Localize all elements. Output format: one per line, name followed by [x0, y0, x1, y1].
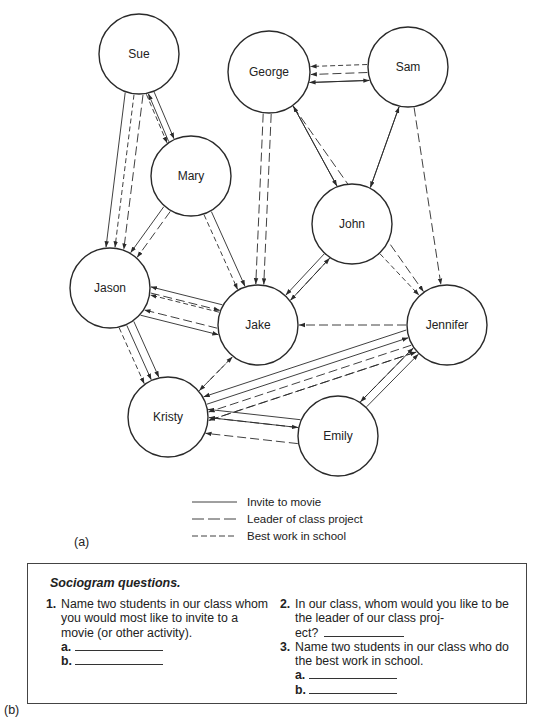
node-label: Jason	[94, 281, 126, 295]
edge-leader-sue-to-jason	[124, 95, 143, 250]
answer-blank-a[interactable]: a.	[61, 640, 271, 654]
answer-line[interactable]	[324, 626, 404, 637]
question-text: In our class, whom would you like to be …	[295, 597, 509, 625]
node-sam: Sam	[368, 27, 448, 107]
question-text: Name two students in our class whom you …	[61, 597, 268, 640]
node-kristy: Kristy	[128, 377, 208, 457]
question-3: 3. Name two students in our class who do…	[280, 640, 520, 697]
edge-movie-john-to-jake	[286, 254, 324, 295]
sociogram-questions-box: Sociogram questions. 1. Name two student…	[27, 563, 527, 704]
edge-best-sue-to-mary	[146, 94, 167, 143]
node-label: Jake	[245, 318, 271, 332]
legend-item-leader: Leader of class project	[192, 513, 364, 525]
legend-item-movie: Invite to movie	[192, 496, 321, 508]
legend-label: Best work in school	[247, 530, 346, 542]
panel-a-label: (a)	[74, 535, 89, 549]
edge-best-mary-to-jake	[204, 215, 238, 290]
edge-movie-george-to-sam	[310, 80, 370, 82]
edge-movie-mary-to-jake	[211, 212, 245, 287]
legend: Invite to movieLeader of class projectBe…	[192, 496, 364, 542]
blank-letter: b.	[61, 654, 75, 668]
answer-line[interactable]	[75, 640, 163, 651]
edge-movie-emily-to-kristy	[208, 409, 300, 419]
legend-item-best: Best work in school	[192, 530, 346, 542]
node-emily: Emily	[298, 396, 378, 476]
edge-movie-jake-to-jason	[151, 287, 223, 305]
edge-best-sam-to-george	[311, 65, 368, 67]
node-label: Mary	[178, 169, 205, 183]
question-1: 1. Name two students in our class whom y…	[46, 597, 271, 668]
node-label: Emily	[323, 429, 352, 443]
node-sue: Sue	[99, 14, 179, 94]
answer-blank-b[interactable]: b.	[295, 683, 520, 697]
edge-leader-george-to-jake	[264, 114, 271, 285]
blank-letter: a.	[295, 668, 309, 682]
edge-leader-jake-to-kristy	[199, 357, 232, 391]
answer-line[interactable]	[75, 654, 163, 665]
node-mary: Mary	[151, 136, 231, 216]
node-jake: Jake	[218, 285, 298, 365]
nodes-layer: SueGeorgeSamMaryJohnJasonJakeJenniferKri…	[70, 14, 487, 476]
blank-letter: a.	[61, 640, 75, 654]
edge-movie-jason-to-jake	[141, 315, 219, 335]
node-label: Jennifer	[426, 318, 469, 332]
answer-line[interactable]	[309, 668, 397, 679]
edge-movie-jake-to-john	[291, 258, 330, 300]
edge-leader-sam-to-jennifer	[414, 108, 441, 285]
node-label: George	[249, 65, 289, 79]
question-number: 3.	[280, 640, 290, 654]
questions-title: Sociogram questions.	[50, 576, 181, 590]
edge-movie-sue-to-jason	[106, 93, 125, 248]
node-label: Sam	[396, 60, 421, 74]
questions-right-column: 2. In our class, whom would you like to …	[280, 597, 520, 697]
node-jennifer: Jennifer	[407, 285, 487, 365]
question-number: 2.	[280, 597, 290, 611]
edge-leader-george-to-jake	[256, 114, 263, 285]
edge-movie-emily-to-jennifer	[367, 354, 419, 406]
node-george: George	[228, 31, 310, 113]
question-number: 1.	[46, 597, 56, 611]
node-label: John	[339, 217, 365, 231]
edge-movie-john-to-george	[293, 106, 337, 186]
question-text: Name two students in our class who do th…	[295, 640, 509, 668]
node-label: Sue	[128, 47, 150, 61]
edge-best-sue-to-jason	[115, 95, 134, 248]
legend-label: Leader of class project	[247, 513, 364, 525]
sociogram-diagram: SueGeorgeSamMaryJohnJasonJakeJenniferKri…	[0, 0, 551, 560]
edge-movie-jennifer-to-emily	[361, 348, 414, 402]
edge-leader-sam-to-george	[311, 73, 368, 75]
blank-letter: b.	[295, 683, 309, 697]
edge-leader-emily-to-kristy	[206, 433, 298, 443]
legend-label: Invite to movie	[247, 496, 321, 508]
answer-blank-a[interactable]: a.	[295, 668, 520, 682]
node-label: Kristy	[153, 410, 183, 424]
node-jason: Jason	[70, 248, 150, 328]
answer-blank-b[interactable]: b.	[61, 654, 271, 668]
edge-movie-john-to-sam	[370, 107, 399, 187]
node-john: John	[312, 184, 392, 264]
question-text-cont: ect?	[295, 626, 318, 640]
edge-movie-mary-to-sue	[148, 94, 168, 142]
edge-movie-mary-to-jason	[131, 207, 164, 253]
edge-leader-mary-to-jason	[137, 211, 170, 257]
edge-best-jake-to-jason	[150, 295, 219, 312]
question-2: 2. In our class, whom would you like to …	[280, 597, 520, 640]
answer-line[interactable]	[309, 683, 397, 694]
questions-left-column: 1. Name two students in our class whom y…	[46, 597, 271, 668]
edge-best-john-to-jennifer	[380, 254, 419, 295]
panel-b-label: (b)	[4, 703, 19, 717]
